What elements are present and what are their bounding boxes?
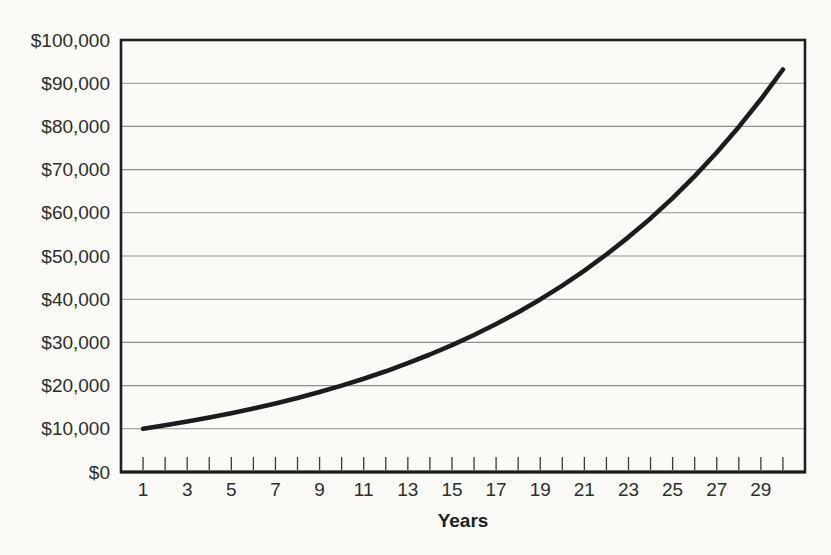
x-tick-label: 29 — [750, 479, 771, 500]
y-tick-label: $100,000 — [31, 30, 110, 51]
y-tick-label: $20,000 — [41, 375, 110, 396]
x-axis-title: Years — [438, 510, 489, 531]
x-tick-label: 21 — [574, 479, 595, 500]
y-tick-label-layer: $0$10,000$20,000$30,000$40,000$50,000$60… — [31, 30, 110, 483]
series-layer — [143, 70, 783, 429]
y-tick-label: $70,000 — [41, 159, 110, 180]
x-tick-layer — [143, 457, 783, 470]
y-tick-label: $90,000 — [41, 73, 110, 94]
x-tick-label: 25 — [662, 479, 683, 500]
growth-curve — [143, 70, 783, 429]
y-tick-label: $30,000 — [41, 332, 110, 353]
x-tick-label: 7 — [270, 479, 281, 500]
x-tick-label: 13 — [397, 479, 418, 500]
compound-growth-chart: $0$10,000$20,000$30,000$40,000$50,000$60… — [0, 0, 831, 555]
y-tick-label: $50,000 — [41, 246, 110, 267]
y-tick-label: $80,000 — [41, 116, 110, 137]
y-tick-label: $60,000 — [41, 202, 110, 223]
x-tick-label: 3 — [182, 479, 193, 500]
y-tick-label: $40,000 — [41, 289, 110, 310]
x-tick-label: 11 — [354, 479, 374, 500]
x-tick-label: 15 — [441, 479, 462, 500]
x-tick-label: 19 — [530, 479, 551, 500]
y-tick-label: $0 — [89, 462, 110, 483]
x-tick-label-layer: 1357911131517192123252729 — [138, 479, 772, 500]
chart-svg: $0$10,000$20,000$30,000$40,000$50,000$60… — [0, 0, 831, 555]
grid-layer — [121, 83, 805, 429]
x-tick-label: 5 — [226, 479, 237, 500]
x-tick-label: 9 — [314, 479, 325, 500]
x-tick-label: 23 — [618, 479, 639, 500]
x-tick-label: 27 — [706, 479, 727, 500]
x-tick-label: 1 — [138, 479, 149, 500]
y-tick-label: $10,000 — [41, 418, 110, 439]
x-tick-label: 17 — [486, 479, 507, 500]
